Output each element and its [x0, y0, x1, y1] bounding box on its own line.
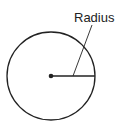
- radius-label: Radius: [74, 10, 115, 25]
- leader-line: [73, 25, 92, 76]
- circle-radius-diagram: Radius: [0, 0, 123, 131]
- center-point: [49, 74, 54, 79]
